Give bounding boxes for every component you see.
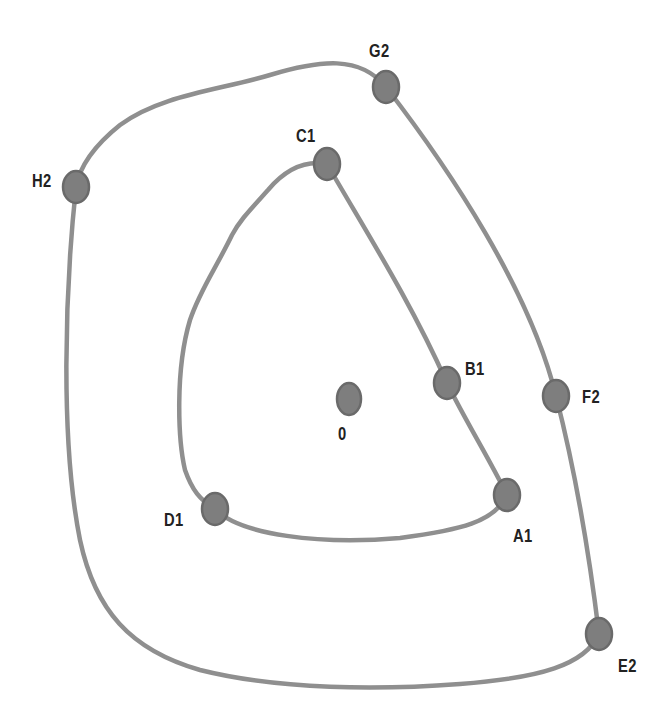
node-center-o [337,383,361,415]
label-f2: F2 [582,388,600,406]
label-o: 0 [338,425,347,443]
node-h2 [63,171,89,203]
label-c1: C1 [296,127,316,145]
node-f2 [543,380,569,412]
label-d1: D1 [164,511,184,529]
node-b1 [434,367,460,399]
label-e2: E2 [618,657,637,675]
node-g2 [373,71,399,103]
label-h2: H2 [32,172,52,190]
label-b1: B1 [465,360,485,378]
node-c1 [314,148,340,180]
node-a1 [494,479,520,511]
label-a1: A1 [513,527,533,545]
node-d1 [202,493,228,525]
node-e2 [586,618,612,650]
loop-diagram [0,0,670,718]
label-g2: G2 [369,42,390,60]
inner-loop-curve [179,163,507,540]
